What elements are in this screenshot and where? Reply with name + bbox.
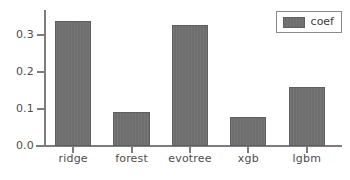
bar-evotree[interactable] [172,25,208,146]
bar-xgb[interactable] [230,117,266,146]
y-tick-label: 0.2 [16,64,34,79]
x-tick-label-forest: forest [115,152,148,165]
bar-ridge[interactable] [55,21,91,146]
y-tick-mark [37,34,44,36]
y-tick-mark [37,108,44,110]
x-tick-label-evotree: evotree [168,152,212,165]
y-tick-mark [37,145,44,147]
y-tick-label: 0.3 [16,27,34,42]
legend[interactable]: coef [276,11,342,33]
y-tick-label: 0.0 [16,138,34,153]
legend-swatch-coef [283,17,305,28]
bar-chart-figure: 0.00.10.20.3 ridgeforestevotreexgblgbm c… [0,0,350,180]
y-tick-label: 0.1 [16,101,34,116]
x-tick-label-ridge: ridge [59,152,88,165]
bar-lgbm[interactable] [289,87,325,146]
x-tick-label-lgbm: lgbm [293,152,322,165]
x-tick-label-xgb: xgb [238,152,259,165]
y-tick-mark [37,71,44,73]
bar-forest[interactable] [113,112,149,146]
legend-label-coef: coef [311,16,334,28]
